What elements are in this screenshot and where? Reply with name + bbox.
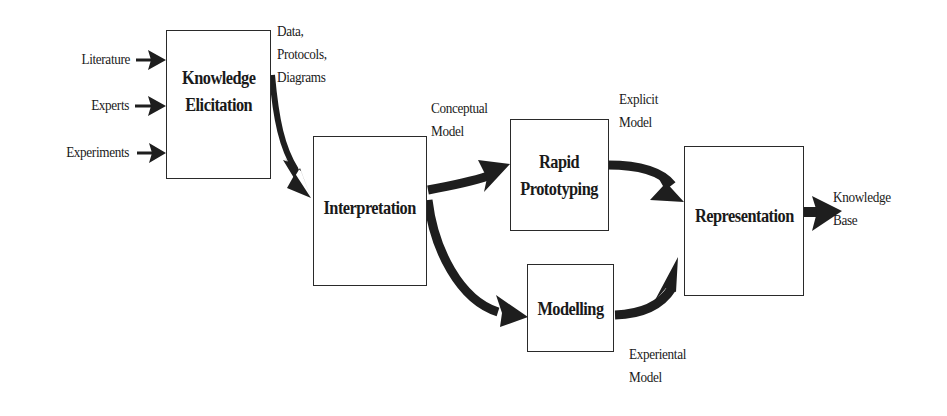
arrow-interpretation-to-modelling [428, 200, 498, 312]
edge-label-explicit-model: Explicit Model [619, 88, 658, 134]
input-label-literature: Literature [42, 48, 130, 71]
input-label-experts: Experts [42, 94, 129, 117]
arrow-experts-to-elicitation [135, 96, 166, 116]
box-modelling: Modelling [527, 264, 614, 352]
edge-label-knowledge-base: Knowledge Base [833, 186, 891, 232]
arrow-elicitation-to-interpretation [272, 75, 296, 170]
arrow-literature-to-elicitation [136, 50, 166, 70]
box-label-knowledge-elicitation: Knowledge Elicitation [182, 64, 255, 118]
box-rapid-prototyping: Rapid Prototyping [510, 119, 609, 231]
edge-label-elicitation-output: Data, Protocols, Diagrams [277, 20, 327, 89]
box-label-interpretation: Interpretation [324, 194, 416, 221]
arrow-layer [0, 0, 947, 416]
box-label-modelling: Modelling [537, 295, 603, 322]
box-label-rapid-prototyping: Rapid Prototyping [521, 148, 599, 202]
box-knowledge-elicitation: Knowledge Elicitation [166, 30, 271, 179]
box-interpretation: Interpretation [313, 136, 427, 286]
box-representation: Representation [684, 146, 804, 296]
edge-label-experiential-model: Experiental Model [629, 343, 686, 389]
edge-label-conceptual-model: Conceptual Model [431, 97, 488, 143]
arrow-experiments-to-elicitation [137, 143, 166, 163]
box-label-representation: Representation [695, 202, 794, 229]
arrow-interpretation-to-prototyping [428, 176, 488, 190]
arrow-modelling-to-representation [615, 288, 672, 315]
input-label-experiments: Experiments [33, 141, 129, 164]
knowledge-engineering-diagram: Literature Experts Experiments Knowledge… [0, 0, 947, 416]
